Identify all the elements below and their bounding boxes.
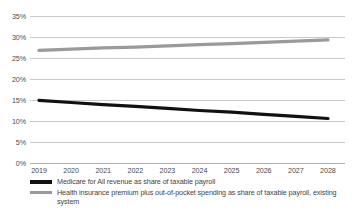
y-axis-tick-label: 5%: [0, 139, 26, 146]
x-axis-tick-label: 2026: [247, 166, 281, 175]
series-line-health-insurance-existing-system: [39, 40, 328, 50]
y-axis-tick-label: 35%: [0, 13, 26, 20]
legend-label: Health insurance premium plus out-of-poc…: [57, 188, 347, 206]
x-axis-tick-label: 2023: [150, 166, 184, 175]
legend-item-health-insurance-existing-system[interactable]: Health insurance premium plus out-of-poc…: [30, 188, 350, 206]
y-axis-tick-label: 15%: [0, 97, 26, 104]
x-axis-tick-label: 2028: [311, 166, 345, 175]
legend-swatch-gray-line: [30, 191, 52, 194]
x-axis-tick-label: 2022: [118, 166, 152, 175]
series-layer: [30, 16, 345, 163]
y-axis-tick-label: 10%: [0, 118, 26, 125]
x-axis-tick-label: 2021: [86, 166, 120, 175]
x-axis-tick-label: 2019: [22, 166, 56, 175]
x-axis-tick-label: 2027: [279, 166, 313, 175]
legend-swatch-black-line: [30, 180, 52, 184]
y-axis-tick-label: 20%: [0, 76, 26, 83]
legend-item-medicare-for-all[interactable]: Medicare for All revenue as share of tax…: [30, 177, 350, 186]
y-axis-labels: 35% 30% 25% 20% 15% 10% 5% 0%: [0, 0, 30, 218]
y-axis-tick-label: 30%: [0, 34, 26, 41]
legend-label: Medicare for All revenue as share of tax…: [57, 177, 215, 186]
series-line-medicare-for-all: [39, 100, 328, 118]
x-axis-tick-label: 2025: [215, 166, 249, 175]
line-chart: 35% 30% 25% 20% 15% 10% 5% 0% 2019 2020 …: [0, 0, 353, 218]
y-axis-tick-label: 25%: [0, 55, 26, 62]
chart-legend: Medicare for All revenue as share of tax…: [30, 177, 350, 209]
x-axis-tick-label: 2024: [183, 166, 217, 175]
x-axis-line: [30, 163, 345, 164]
x-axis-tick-label: 2020: [54, 166, 88, 175]
